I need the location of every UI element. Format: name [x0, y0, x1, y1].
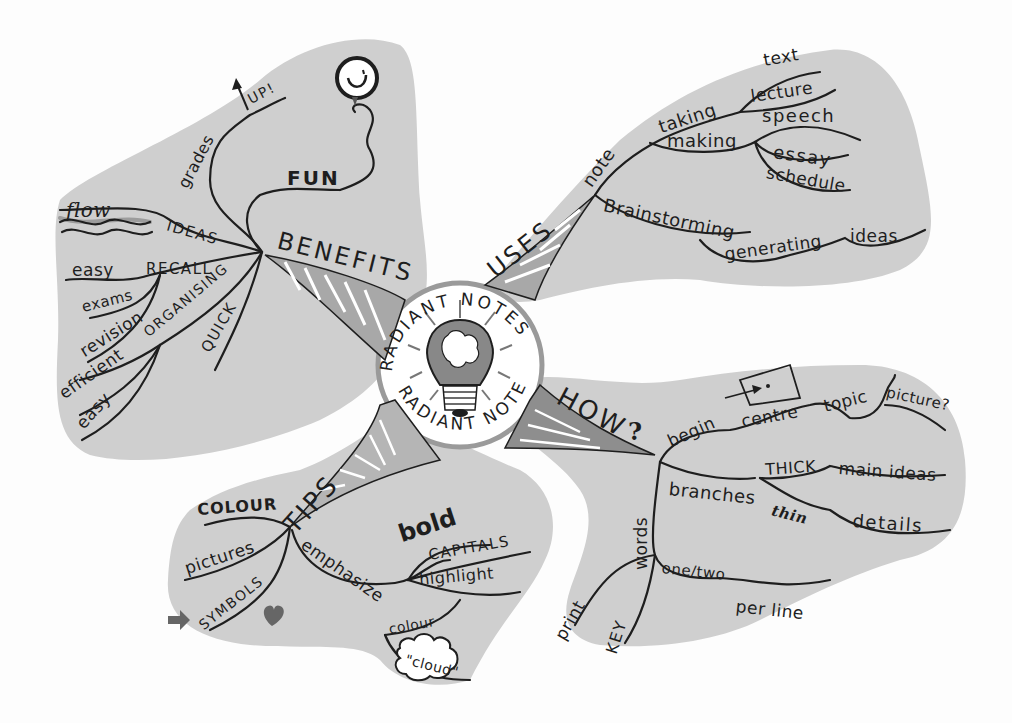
uses-region: [490, 50, 931, 302]
how-words[interactable]: words: [633, 517, 650, 570]
benefit-flow[interactable]: flow: [66, 200, 111, 220]
benefit-easy-recall[interactable]: easy: [72, 262, 114, 279]
use-making[interactable]: making: [667, 132, 737, 150]
how-thick[interactable]: THICK: [765, 459, 817, 478]
benefit-fun[interactable]: FUN: [287, 168, 340, 188]
how-question-mark: ?: [628, 420, 642, 444]
use-speech[interactable]: speech: [762, 107, 835, 125]
mind-map-canvas: RADIANT NOTES RADIANT NOTES: [0, 0, 1012, 723]
how-details[interactable]: details: [852, 512, 924, 535]
use-ideas[interactable]: ideas: [850, 228, 898, 245]
